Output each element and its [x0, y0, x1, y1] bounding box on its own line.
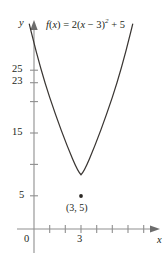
x-axis — [17, 225, 160, 232]
equation-minus-three: − 3) — [85, 19, 105, 30]
x-axis-label: x — [157, 235, 162, 246]
y-tick-label-15: 15 — [12, 127, 23, 138]
y-axis-label: y — [19, 18, 24, 29]
parabola-curve — [29, 24, 132, 175]
parabola-figure: y x f(x) = 2(x − 3)2 + 5 25 23 15 5 0 3 … — [0, 0, 168, 261]
equation-equals: = 2( — [61, 19, 81, 30]
x-tick-label-3: 3 — [77, 234, 82, 245]
equation-tail: + 5 — [109, 19, 125, 30]
origin-label: 0 — [24, 234, 29, 245]
y-tick-label-5: 5 — [19, 190, 24, 201]
vertex-point-marker — [79, 194, 83, 198]
vertex-annotation: (3, 5) — [66, 203, 88, 213]
function-equation: f(x) = 2(x − 3)2 + 5 — [46, 18, 125, 30]
y-tick-label-25: 25 — [12, 64, 23, 75]
y-tick-label-23: 23 — [12, 76, 23, 87]
graph-canvas — [0, 0, 168, 261]
